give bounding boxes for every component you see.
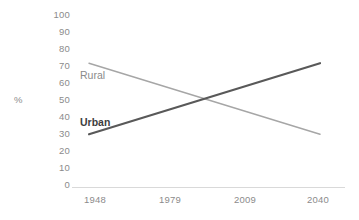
x-tick-2040: 2040 [307,195,329,205]
x-tick-1948: 1948 [84,195,106,205]
chart-container: 100 90 80 70 60 50 40 30 20 10 0 % Rural… [0,0,359,220]
series-label-urban: Urban [80,117,110,128]
x-tick-1979: 1979 [159,195,181,205]
plot-area [0,0,359,220]
x-tick-2009: 2009 [234,195,256,205]
series-label-rural: Rural [80,70,105,81]
